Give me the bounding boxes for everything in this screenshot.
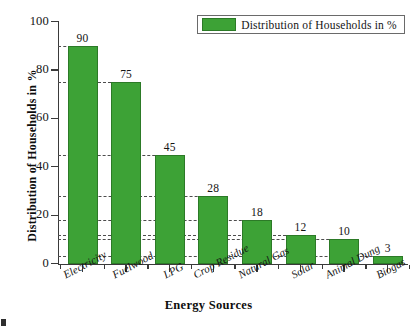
bar-value-label: 18 xyxy=(237,206,277,218)
y-axis-tick xyxy=(51,166,59,167)
x-axis-minor-tick xyxy=(104,265,105,269)
x-axis-minor-tick xyxy=(409,265,410,269)
chart-legend: Distribution of Households in % xyxy=(197,15,405,34)
bar-value-label: 10 xyxy=(324,225,364,237)
y-axis-title: Distribution of Households in % xyxy=(25,61,40,251)
bar-value-label: 90 xyxy=(63,32,103,44)
bar xyxy=(68,46,98,264)
y-axis-tick xyxy=(51,118,59,119)
bar-value-label: 75 xyxy=(106,68,146,80)
y-axis-tick xyxy=(51,215,59,216)
y-axis-tick-label: 100 xyxy=(9,14,49,29)
x-axis-minor-tick xyxy=(60,265,61,269)
y-axis-tick xyxy=(51,263,59,264)
bar-value-label: 28 xyxy=(193,182,233,194)
x-axis-title: Energy Sources xyxy=(0,298,417,313)
bar xyxy=(155,155,185,264)
x-axis-minor-tick xyxy=(365,265,366,269)
x-axis-minor-tick xyxy=(147,265,148,269)
legend-label: Distribution of Households in % xyxy=(236,19,404,31)
corner-artifact-mark xyxy=(1,319,6,326)
y-axis-line xyxy=(58,21,59,265)
bar-value-label: 45 xyxy=(150,141,190,153)
y-axis-tick-label: 0 xyxy=(9,256,49,271)
y-axis-tick xyxy=(51,21,59,22)
x-axis-minor-tick xyxy=(234,265,235,269)
x-axis-minor-tick xyxy=(278,265,279,269)
bar-chart: 020406080100 907545281812103 Electricity… xyxy=(0,0,417,330)
x-axis-minor-tick xyxy=(322,265,323,269)
legend-color-swatch xyxy=(202,18,236,31)
bar-value-label: 12 xyxy=(281,221,321,233)
y-axis-tick xyxy=(51,69,59,70)
bar xyxy=(111,82,141,264)
